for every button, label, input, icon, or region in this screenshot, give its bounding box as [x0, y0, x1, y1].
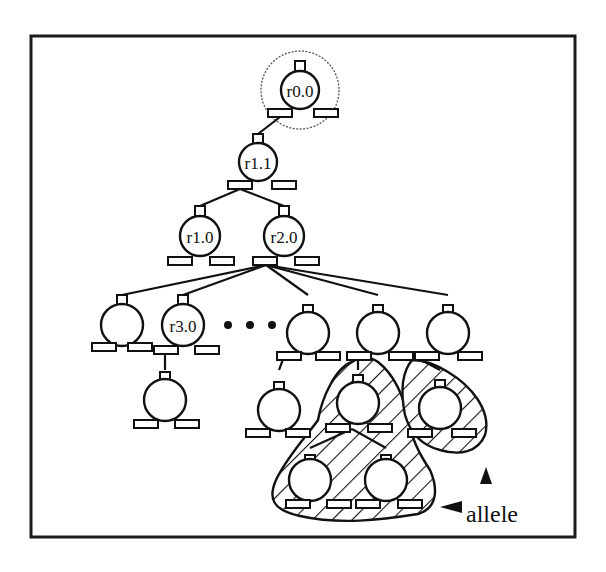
node-r1-0[interactable]: r1.0 — [168, 206, 234, 265]
node-r3-0[interactable]: r3.0 — [154, 295, 219, 354]
node-child-4[interactable] — [347, 305, 413, 360]
node-label: r3.0 — [170, 317, 197, 336]
node-label: r1.1 — [245, 154, 272, 173]
node-child-3[interactable] — [277, 305, 340, 360]
ellipsis — [224, 321, 276, 329]
node-label: r2.0 — [271, 228, 298, 247]
allele-label: allele — [466, 501, 518, 527]
node-label: r0.0 — [287, 82, 314, 101]
node-r0-0[interactable]: r0.0 — [268, 61, 338, 117]
arrow-left-icon — [440, 501, 462, 513]
output-slot-left — [268, 109, 292, 117]
output-slot-right — [314, 109, 338, 117]
node-r2-0[interactable]: r2.0 — [253, 206, 319, 265]
node-label: r1.0 — [187, 228, 214, 247]
arrow-up-icon — [480, 467, 492, 484]
node-child-5[interactable] — [415, 305, 482, 360]
node-grandchild-1[interactable] — [134, 372, 199, 428]
node-r1-1[interactable]: r1.1 — [228, 134, 296, 189]
node-child-1[interactable] — [92, 295, 152, 351]
tree-diagram: r0.0 r1.1 r1.0 r2.0 r3.0 — [0, 0, 606, 572]
node-grandchild-2[interactable] — [246, 382, 310, 437]
